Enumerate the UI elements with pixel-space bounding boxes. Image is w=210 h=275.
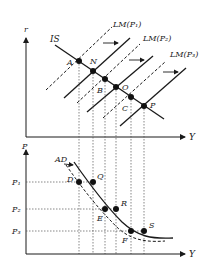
label-c: C: [122, 104, 128, 113]
label-a: A: [66, 58, 73, 67]
point-p: [141, 103, 147, 109]
point-e: [102, 206, 108, 212]
top-panel: r Y IS LM(P₁) LM(P₂) LM(P₃): [24, 20, 198, 254]
point-f: [128, 228, 134, 234]
point-c: [128, 94, 134, 100]
lm2-label: LM(P₂): [142, 34, 171, 43]
bottom-panel: P Y P₁ P₂ P₃ AD D Q E R F S: [11, 142, 196, 259]
y-axis-label-top: Y: [189, 132, 196, 142]
price-level-2: P₂: [11, 205, 21, 214]
y-axis-label-bottom: Y: [189, 249, 196, 259]
label-d: D: [66, 175, 74, 184]
label-o: O: [122, 83, 129, 92]
point-s: [141, 228, 147, 234]
label-s: S: [149, 221, 155, 230]
point-r: [113, 206, 119, 212]
label-f: F: [121, 236, 128, 245]
label-n: N: [89, 57, 98, 66]
p-axis-label: P: [21, 142, 28, 151]
price-level-1: P₁: [11, 178, 21, 187]
point-b: [102, 76, 108, 82]
price-level-3: P₃: [11, 227, 21, 236]
r-axis-label: r: [24, 25, 29, 34]
point-a: [76, 58, 82, 64]
label-q: Q: [97, 172, 104, 181]
point-o: [113, 84, 119, 90]
lm1-label: LM(P₁): [112, 20, 141, 29]
is-lm-ad-diagram: r Y IS LM(P₁) LM(P₂) LM(P₃): [0, 0, 210, 275]
ad-label: AD: [54, 155, 68, 164]
ad-shift-arrow: [64, 164, 73, 165]
point-n: [90, 68, 96, 74]
is-label: IS: [49, 34, 60, 44]
label-e: E: [96, 214, 103, 223]
point-d: [76, 179, 82, 185]
lm3-label: LM(P₃): [169, 50, 198, 59]
label-p: P: [149, 101, 156, 110]
label-r: R: [120, 199, 127, 208]
label-b: B: [96, 86, 103, 95]
point-q: [90, 179, 96, 185]
